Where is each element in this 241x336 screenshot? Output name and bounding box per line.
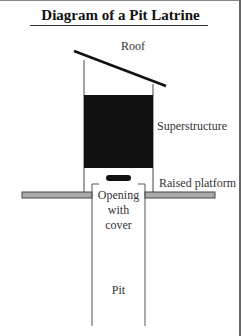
platform-left	[22, 192, 92, 198]
cover-slab	[106, 175, 131, 181]
label-opening-line1: Opening	[92, 188, 145, 203]
roof-line	[74, 51, 166, 86]
label-superstructure: Superstructure	[157, 119, 227, 134]
platform-right	[145, 192, 215, 198]
label-pit: Pit	[92, 283, 145, 298]
label-roof: Roof	[121, 39, 145, 54]
label-raised-platform: Raised platform	[159, 176, 236, 191]
label-opening-line2: with	[92, 203, 145, 218]
superstructure-block	[84, 95, 153, 168]
label-opening-line3: cover	[92, 218, 145, 233]
